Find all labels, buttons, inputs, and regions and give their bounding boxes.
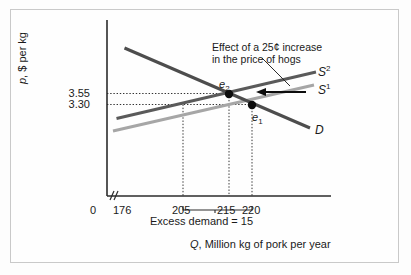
x-axis-title-var: Q: [190, 238, 199, 250]
shift-note-line2: in the price of hogs: [212, 53, 322, 65]
curve-label-s1-sup: 1: [326, 82, 330, 91]
equilibrium-label-e2: e2: [219, 79, 230, 93]
y-axis-title-rest: , $ per kg: [16, 32, 28, 78]
x-axis-title-rest: , Million kg of pork per year: [199, 238, 331, 250]
equilibrium-label-e2-sub: 2: [225, 84, 229, 93]
equilibrium-label-e1-sub: 1: [258, 117, 262, 126]
curve-label-d: D: [315, 124, 324, 136]
y-axis-title-var: p: [16, 78, 28, 84]
x-tick-label-0: 0: [90, 205, 96, 216]
curve-label-s2-sup: 2: [326, 64, 330, 73]
y-tick-label-330: 3.30: [46, 99, 90, 110]
x-axis-title: Q, Million kg of pork per year: [190, 239, 331, 250]
shift-note-line1: Effect of a 25¢ increase: [212, 41, 322, 53]
excess-demand-label: Excess demand = 15: [150, 216, 253, 227]
curve-label-s2: S2: [318, 65, 330, 78]
curve-label-s1-text: S: [318, 83, 326, 97]
guide-lines: [107, 94, 252, 197]
y-axis-title: p, $ per kg: [16, 23, 28, 93]
curve-label-s1: S1: [318, 83, 330, 96]
chart-canvas: [0, 0, 411, 275]
equilibrium-label-e1: e1: [252, 112, 263, 126]
x-tick-label-176: 176: [113, 205, 131, 216]
equilibrium-point-e1: [248, 101, 256, 109]
supply-curve-s2: [117, 72, 317, 119]
curve-label-s2-text: S: [318, 65, 326, 79]
figure-container: p, $ per kg 3.55 3.30 0 176 205 215 220 …: [0, 0, 411, 275]
shift-note: Effect of a 25¢ increase in the price of…: [212, 41, 322, 65]
